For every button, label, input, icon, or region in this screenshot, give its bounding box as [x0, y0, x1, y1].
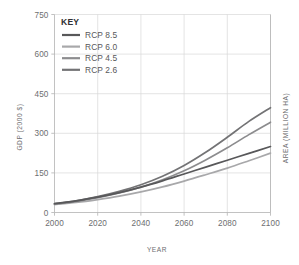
- chart-container: 0150300450600750 20002020204020602080210…: [0, 0, 299, 265]
- series-line-rcp-6-0: [55, 153, 271, 204]
- series-line-rcp-4-5: [55, 122, 271, 204]
- y-tick-label: 0: [44, 209, 49, 218]
- y-axis-tick-labels: 0150300450600750: [35, 11, 49, 218]
- x-axis-tick-labels: 200020202040206020802100: [45, 219, 280, 228]
- chart-legend: KEY RCP 8.5RCP 6.0RCP 4.5RCP 2.6: [61, 17, 117, 75]
- legend-item-label: RCP 8.5: [85, 30, 117, 40]
- x-tick-label: 2100: [261, 219, 280, 228]
- series-line-rcp-2-6: [55, 108, 271, 204]
- x-tick-label: 2020: [88, 219, 107, 228]
- x-axis-title: YEAR: [147, 246, 167, 253]
- y-axis-left-title: GDP (2000 $): [16, 103, 24, 150]
- x-tick-label: 2040: [132, 219, 151, 228]
- legend-item[interactable]: RCP 2.6: [62, 65, 117, 75]
- y-tick-label: 600: [35, 50, 49, 59]
- y-tick-label: 300: [35, 129, 49, 138]
- legend-title: KEY: [61, 17, 79, 27]
- line-chart: 0150300450600750 20002020204020602080210…: [0, 0, 299, 265]
- legend-item[interactable]: RCP 8.5: [62, 30, 117, 40]
- legend-items: RCP 8.5RCP 6.0RCP 4.5RCP 2.6: [62, 30, 117, 75]
- series-lines: [55, 108, 271, 205]
- y-tick-label: 750: [35, 11, 49, 20]
- x-tick-label: 2000: [45, 219, 64, 228]
- legend-item[interactable]: RCP 4.5: [62, 53, 117, 63]
- legend-item-label: RCP 4.5: [85, 53, 117, 63]
- x-tick-label: 2060: [175, 219, 194, 228]
- legend-item-label: RCP 2.6: [85, 65, 117, 75]
- y-tick-label: 150: [35, 169, 49, 178]
- y-axis-right-title: AREA (MILLION HA): [282, 93, 290, 164]
- series-line-rcp-8-5: [55, 147, 271, 204]
- x-tick-label: 2080: [218, 219, 237, 228]
- legend-item-label: RCP 6.0: [85, 42, 117, 52]
- legend-item[interactable]: RCP 6.0: [62, 42, 117, 52]
- y-tick-label: 450: [35, 90, 49, 99]
